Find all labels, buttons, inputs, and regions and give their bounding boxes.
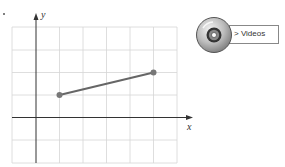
coordinate-graph — [0, 0, 200, 167]
segment-endpoint-start — [57, 92, 63, 98]
cd-icon — [195, 16, 233, 54]
grid-lines — [12, 27, 177, 163]
videos-link[interactable]: > Videos — [195, 16, 283, 56]
x-axis-label: x — [187, 121, 191, 132]
videos-button[interactable]: > Videos — [229, 25, 279, 44]
x-axis-arrow-icon — [186, 115, 193, 120]
segment-endpoint-end — [151, 70, 157, 76]
y-axis-arrow-icon — [34, 13, 39, 20]
videos-label: > Videos — [234, 29, 265, 38]
y-axis-label: y — [41, 9, 45, 20]
